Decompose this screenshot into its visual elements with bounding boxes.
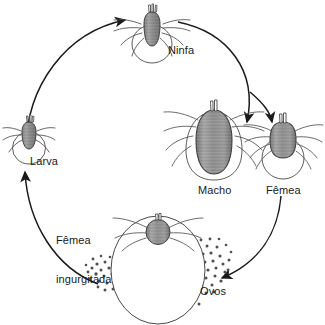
label-femea-ingurgitada-line1: Fêmea	[56, 234, 112, 247]
arrow-ninfa-to-macho	[178, 22, 249, 122]
label-ovos: Ovos	[200, 285, 226, 298]
stage-femea-ingurgitada-figure	[111, 214, 205, 325]
arrow-larva-to-ninfa	[26, 20, 125, 150]
arrow-femea-to-ovos	[222, 196, 281, 278]
tick-life-cycle-diagram: Ninfa Larva Macho Fêmea Ovos Fêmea ingur…	[0, 0, 325, 325]
arrow-ninfa-to-femea	[250, 92, 272, 122]
stage-femea-figure	[244, 113, 323, 179]
label-femea-ingurgitada: Fêmea ingurgitada	[56, 208, 112, 312]
label-larva: Larva	[30, 155, 58, 168]
label-ninfa: Ninfa	[168, 44, 194, 57]
label-macho: Macho	[198, 184, 232, 197]
label-femea: Fêmea	[266, 184, 301, 197]
label-femea-ingurgitada-line2: ingurgitada	[56, 273, 112, 286]
